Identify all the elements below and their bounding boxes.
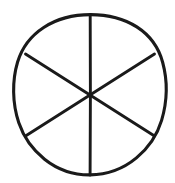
center-point [88,93,91,96]
figure-canvas: Circle divided into six equal sectors A … [0,0,175,183]
circle-sectors-diagram: Circle divided into six equal sectors A … [0,0,175,183]
